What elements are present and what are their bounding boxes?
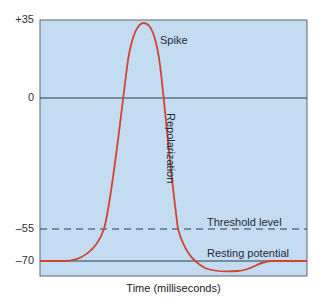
spike-label: Spike bbox=[160, 34, 188, 46]
y-tick-0: 0 bbox=[0, 91, 34, 103]
threshold-label: Threshold level bbox=[207, 216, 282, 228]
y-tick-minus-70: –70 bbox=[0, 254, 34, 266]
x-axis-label: Time (milliseconds) bbox=[40, 282, 307, 294]
y-tick-35: +35 bbox=[0, 13, 34, 25]
repolarization-label: Repolarization bbox=[165, 113, 177, 183]
resting-potential-label: Resting potential bbox=[207, 247, 289, 259]
y-tick-minus-55: –55 bbox=[0, 222, 34, 234]
